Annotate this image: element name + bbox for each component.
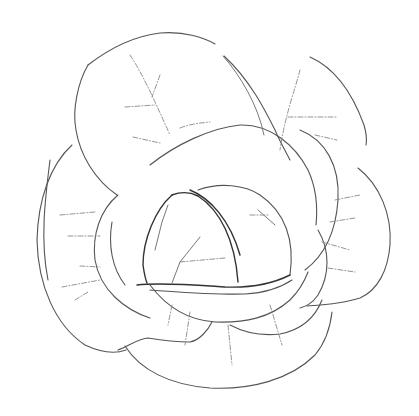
vein <box>330 218 355 222</box>
vein <box>280 70 300 150</box>
vein <box>62 280 100 287</box>
vein <box>133 137 160 143</box>
cabbage-illustration <box>0 0 419 416</box>
vein <box>172 237 200 283</box>
leaf-mid-left <box>94 195 150 318</box>
leaf-bottom-lip <box>118 322 212 350</box>
leaf-mid-top <box>150 125 317 225</box>
leaf-top-right <box>310 57 366 145</box>
vein <box>223 56 264 135</box>
leaf-mid-left-inner <box>111 222 125 285</box>
leaf-top-left-rim <box>88 33 215 65</box>
vein <box>155 205 168 250</box>
head-crown-1 <box>172 193 238 282</box>
leaf-mid-right <box>300 130 338 270</box>
cabbage-drawing <box>0 0 419 416</box>
leaf-top-right-inner <box>224 56 290 160</box>
vein <box>60 212 95 215</box>
leaf-right-outer <box>307 168 390 306</box>
vein <box>125 105 155 107</box>
vein <box>168 305 172 325</box>
vein <box>152 75 160 97</box>
head-crown-2 <box>190 190 240 255</box>
vein <box>270 305 282 345</box>
head-right-dome <box>198 185 291 275</box>
vein <box>335 195 360 200</box>
vein <box>130 55 170 135</box>
leaf-left-outer <box>37 145 126 352</box>
vein <box>180 122 210 128</box>
inner-head <box>137 185 292 294</box>
head-base-band <box>137 275 290 287</box>
vein <box>180 258 225 262</box>
vein <box>75 292 88 300</box>
leaf-top-left <box>75 65 117 195</box>
vein <box>185 312 190 345</box>
leaf-mid-right-outer <box>300 230 327 308</box>
vein <box>258 210 275 225</box>
vein <box>328 268 355 272</box>
vein <box>80 266 100 267</box>
vein <box>315 135 337 140</box>
middle-leaves <box>94 125 338 335</box>
vein <box>228 325 232 365</box>
leaf-bottom <box>125 312 332 388</box>
